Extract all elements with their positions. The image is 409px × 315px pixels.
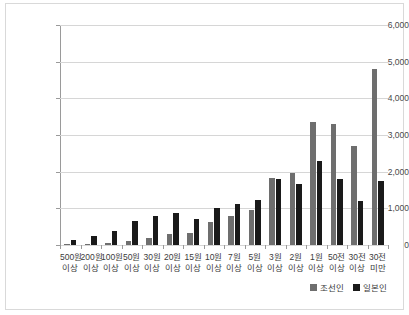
bar-조선인-3원 이상 [269, 178, 275, 245]
bar-조선인-1원 이상 [310, 122, 316, 245]
bar-조선인-30원 이상 [146, 238, 152, 245]
bar-chart-figure: 01,0002,0003,0004,0005,0006,000 500원이상20… [0, 0, 409, 315]
bar-일본인-2원 이상 [296, 184, 302, 245]
x-axis-tick-mark [388, 245, 389, 249]
bar-group [290, 25, 302, 245]
bar-조선인-500원 이상 [64, 244, 70, 245]
legend-label: 조선인 [320, 281, 344, 293]
bar-조선인-50원 이상 [126, 241, 132, 245]
plot-area [60, 25, 388, 245]
bar-group [187, 25, 199, 245]
x-axis-category-label: 3원이상 [265, 252, 286, 274]
bar-조선인-30전 미만 [372, 69, 378, 245]
x-axis-category-label: 30전이상 [347, 252, 368, 274]
bar-group [126, 25, 138, 245]
bar-group [351, 25, 363, 245]
x-axis-tick-mark [224, 245, 225, 249]
bar-조선인-100원 이상 [105, 243, 111, 245]
bar-group [146, 25, 158, 245]
x-axis-tick-mark [347, 245, 348, 249]
x-axis-tick-mark [368, 245, 369, 249]
bar-group [64, 25, 76, 245]
bar-조선인-5원 이상 [249, 210, 255, 245]
x-axis-tick-mark [142, 245, 143, 249]
x-axis-category-label: 15원이상 [183, 252, 204, 274]
x-axis-tick-mark [60, 245, 61, 249]
bar-일본인-3원 이상 [276, 179, 282, 245]
x-axis-tick-mark [204, 245, 205, 249]
bar-group [310, 25, 322, 245]
x-axis-category-label: 30원이상 [142, 252, 163, 274]
x-axis-tick-mark [265, 245, 266, 249]
bar-group [372, 25, 384, 245]
bar-group [269, 25, 281, 245]
legend-swatch-icon [310, 284, 317, 291]
bar-일본인-100원 이상 [112, 231, 118, 245]
bar-일본인-15원 이상 [194, 219, 200, 245]
bar-조선인-7원 이상 [228, 216, 234, 245]
x-axis-category-label: 7원이상 [224, 252, 245, 274]
bar-일본인-30원 이상 [153, 216, 159, 245]
bar-group [331, 25, 343, 245]
x-axis-category-label: 30전미만 [368, 252, 389, 274]
bar-group [208, 25, 220, 245]
bar-조선인-20원 이상 [167, 234, 173, 245]
chart-legend: 조선인일본인 [310, 281, 387, 293]
bar-조선인-200원 이상 [85, 244, 91, 245]
bar-일본인-20원 이상 [173, 213, 179, 245]
legend-label: 일본인 [363, 281, 387, 293]
x-axis-tick-mark [245, 245, 246, 249]
x-axis-tick-mark [163, 245, 164, 249]
bar-일본인-50전 이상 [337, 179, 343, 245]
bar-group [249, 25, 261, 245]
x-axis-category-label: 50전이상 [327, 252, 348, 274]
bar-group [85, 25, 97, 245]
x-axis-category-label: 50원이상 [122, 252, 143, 274]
bar-조선인-30전 이상 [351, 146, 357, 245]
x-axis-tick-mark [286, 245, 287, 249]
legend-item-일본인[interactable]: 일본인 [353, 281, 387, 293]
x-axis-category-label: 20원이상 [163, 252, 184, 274]
bar-일본인-10원 이상 [214, 208, 220, 245]
bar-일본인-30전 미만 [378, 181, 384, 245]
x-axis-tick-mark [122, 245, 123, 249]
bar-일본인-200원 이상 [91, 236, 97, 245]
x-axis-tick-mark [306, 245, 307, 249]
bar-일본인-1원 이상 [317, 161, 323, 245]
legend-item-조선인[interactable]: 조선인 [310, 281, 344, 293]
bar-일본인-30전 이상 [358, 201, 364, 245]
bar-조선인-10원 이상 [208, 222, 214, 245]
bar-일본인-50원 이상 [132, 221, 138, 245]
bar-일본인-7원 이상 [235, 204, 241, 245]
x-axis-category-label: 500원이상 [60, 252, 81, 274]
x-axis-category-label: 2원이상 [286, 252, 307, 274]
x-axis-category-label: 1원이상 [306, 252, 327, 274]
x-axis-category-label: 200원이상 [81, 252, 102, 274]
x-axis-category-label: 10원이상 [204, 252, 225, 274]
bar-group [167, 25, 179, 245]
bar-group [228, 25, 240, 245]
bar-일본인-500원 이상 [71, 240, 77, 245]
x-axis-tick-mark [81, 245, 82, 249]
x-axis-category-label: 5원이상 [245, 252, 266, 274]
bar-조선인-50전 이상 [331, 124, 337, 245]
bar-group [105, 25, 117, 245]
bar-조선인-2원 이상 [290, 173, 296, 245]
x-axis-tick-mark [327, 245, 328, 249]
legend-swatch-icon [353, 284, 360, 291]
bar-일본인-5원 이상 [255, 200, 261, 245]
x-axis-tick-mark [101, 245, 102, 249]
x-axis-tick-mark [183, 245, 184, 249]
bar-조선인-15원 이상 [187, 233, 193, 245]
x-axis-category-label: 100원이상 [101, 252, 122, 274]
